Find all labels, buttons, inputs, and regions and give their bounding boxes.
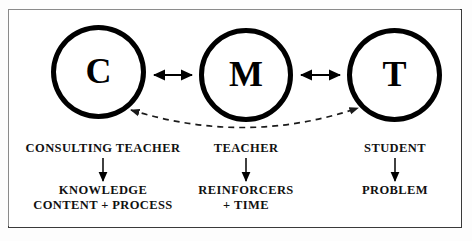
arrow-gap-middle bbox=[186, 155, 306, 183]
role-label-teacher: TEACHER bbox=[186, 141, 306, 155]
outcome-line-content-process: CONTENT + PROCESS bbox=[4, 198, 202, 213]
outcome-line-problem: PROBLEM bbox=[330, 183, 460, 198]
role-label-consulting-teacher: CONSULTING TEACHER bbox=[4, 141, 202, 155]
column-teacher: TEACHER REINFORCERS + TIME bbox=[186, 141, 306, 212]
outcome-line-knowledge: KNOWLEDGE bbox=[4, 183, 202, 198]
node-letter-m: M bbox=[229, 56, 263, 92]
column-student: STUDENT PROBLEM bbox=[330, 141, 460, 198]
consulting-teacher-node: C bbox=[51, 25, 146, 119]
arrow-gap-right bbox=[330, 155, 460, 183]
student-node: T bbox=[347, 28, 442, 122]
node-letter-t: T bbox=[382, 56, 406, 92]
diagram-canvas: C M T bbox=[0, 0, 472, 241]
teacher-node: M bbox=[199, 28, 293, 122]
column-consulting-teacher: CONSULTING TEACHER KNOWLEDGE CONTENT + P… bbox=[4, 141, 202, 212]
outcome-line-reinforcers: REINFORCERS bbox=[186, 183, 306, 198]
role-label-student: STUDENT bbox=[330, 141, 460, 155]
node-letter-c: C bbox=[86, 53, 112, 89]
arrow-gap-left bbox=[4, 155, 202, 183]
outcome-line-time: + TIME bbox=[186, 198, 306, 213]
